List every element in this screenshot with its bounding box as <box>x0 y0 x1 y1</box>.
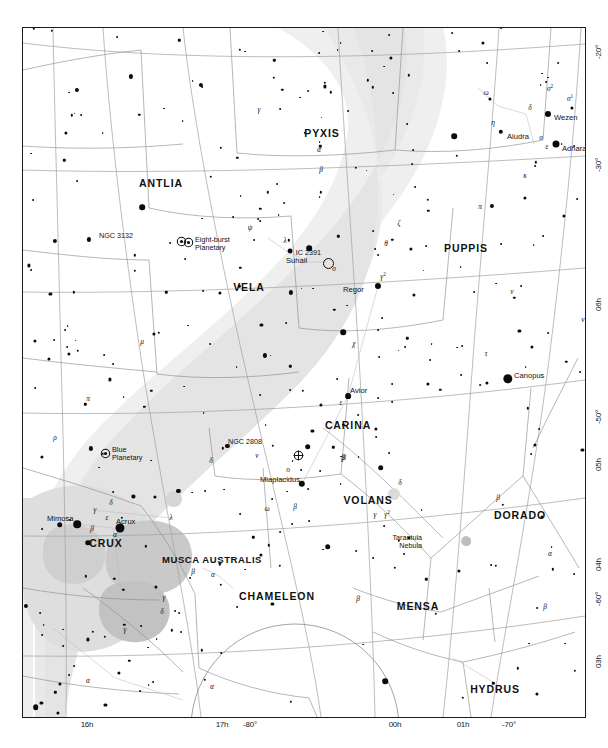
dso-name-label: TarantulaNebula <box>392 534 422 551</box>
star-point <box>204 490 206 492</box>
star-point <box>388 452 390 454</box>
star-point <box>486 62 488 64</box>
star-point <box>301 288 303 290</box>
star-point <box>414 186 416 188</box>
star-point <box>123 396 125 398</box>
star-point <box>423 270 425 272</box>
star-point <box>534 165 536 167</box>
bayer-letter: ζ <box>398 219 401 228</box>
star-point <box>253 239 255 241</box>
bayer-letter: μ <box>140 337 144 346</box>
star-point <box>322 31 324 33</box>
bayer-letter: ω <box>264 504 269 513</box>
star-point <box>163 108 165 110</box>
bayer-letter: η <box>491 118 495 127</box>
star-point <box>174 610 176 612</box>
star-point <box>139 690 141 692</box>
star-point <box>500 27 502 29</box>
star-point <box>169 242 171 244</box>
bayer-letter: ε <box>106 513 109 522</box>
star-point <box>276 184 278 186</box>
star-point <box>403 553 405 555</box>
dso-name-label: IC 2391 <box>296 249 321 257</box>
star-point <box>421 509 423 511</box>
star-point <box>53 339 55 341</box>
star-point <box>77 180 79 182</box>
bayer-letter: χ <box>352 339 355 348</box>
star-point <box>548 77 550 79</box>
bayer-letter-superscript: σ2 <box>547 83 553 93</box>
bayer-letter: π <box>478 202 482 211</box>
star-point <box>461 374 463 376</box>
bayer-letter: α <box>211 570 215 579</box>
star-point <box>156 638 158 640</box>
star-point <box>391 383 393 385</box>
star-point <box>67 325 69 327</box>
bayer-letter: β <box>90 524 94 533</box>
star-point <box>404 346 406 348</box>
star-point <box>34 387 36 389</box>
star-point <box>577 199 579 201</box>
star-point <box>372 230 374 232</box>
axis-tick-bottom: -70° <box>502 720 516 729</box>
star-point <box>66 346 68 348</box>
bayer-letter: ο <box>286 465 290 474</box>
star-name-label: Mimosa <box>47 514 74 523</box>
star-point <box>74 113 76 115</box>
star-point <box>346 305 348 307</box>
dso-name-label: BluePlanetary <box>112 446 142 463</box>
star-point <box>203 412 205 414</box>
star-point <box>495 283 497 285</box>
bayer-letter: ρ <box>53 433 57 442</box>
bayer-letter: ν <box>255 451 258 460</box>
star-point <box>180 631 182 633</box>
star-point <box>178 612 180 614</box>
bayer-letter: δ <box>209 456 212 465</box>
star-point <box>393 194 395 196</box>
star-point <box>378 356 380 358</box>
bayer-letter: ν <box>581 315 584 324</box>
star-point <box>308 521 310 523</box>
star-name-label: Adhara <box>562 144 586 153</box>
bayer-letter: λ <box>169 513 172 522</box>
star-point <box>528 643 530 645</box>
star-name-label: Acrux <box>116 517 135 526</box>
star-point <box>271 498 273 500</box>
star-point <box>116 36 118 38</box>
dso-name-label: Eight-burstPlanetary <box>195 236 230 253</box>
star-point <box>42 634 44 636</box>
star-point <box>378 465 384 471</box>
star-point <box>152 681 154 683</box>
bayer-letter: κ <box>523 171 527 180</box>
constellation-name: CRUX <box>89 537 122 549</box>
planetary-name-icon <box>183 237 194 248</box>
axis-tick-right: 03h <box>594 655 603 668</box>
bayer-letter: γ <box>124 625 127 634</box>
star-point <box>259 394 261 396</box>
named-star <box>553 141 560 148</box>
star-point <box>374 248 376 250</box>
star-point <box>479 384 481 386</box>
star-point <box>209 343 211 345</box>
star-point <box>321 117 323 119</box>
star-point <box>220 652 222 654</box>
bayer-letter: σ <box>539 133 543 142</box>
star-point <box>357 414 359 416</box>
star-point <box>540 84 542 86</box>
star-point <box>32 199 34 201</box>
star-point <box>458 51 460 53</box>
star-point <box>325 544 331 550</box>
star-point <box>376 436 378 438</box>
constellation-name: HYDRUS <box>470 683 520 695</box>
star-point <box>33 705 39 711</box>
star-point <box>431 343 433 345</box>
dso-marker-planetary-name <box>183 234 194 252</box>
star-point <box>525 366 527 368</box>
axis-tick-right: 05h <box>594 458 603 471</box>
star-point <box>75 340 77 342</box>
axis-tick-right: -30° <box>594 158 603 172</box>
star-point <box>191 492 193 494</box>
star-point <box>322 549 324 551</box>
axis-tick-right: 06h <box>594 298 603 311</box>
star-point <box>580 371 582 373</box>
